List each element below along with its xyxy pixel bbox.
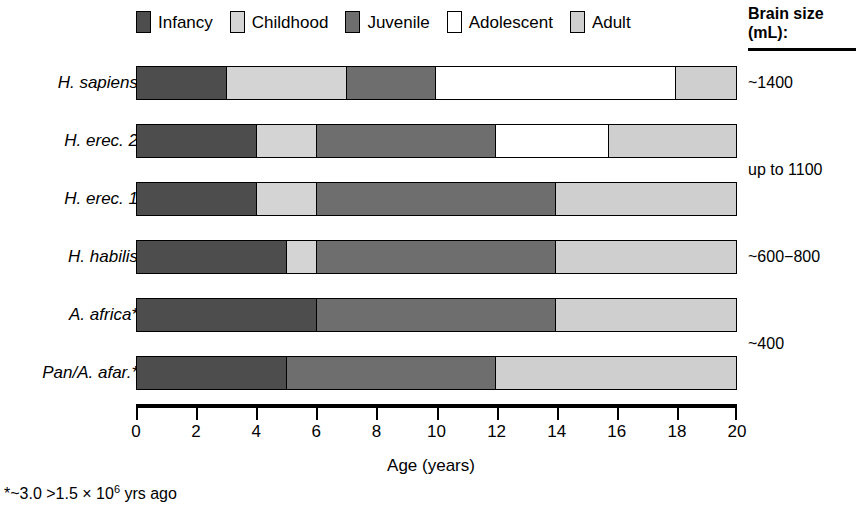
species-label: H. erec. 2	[64, 124, 138, 158]
x-axis-tick	[497, 407, 499, 420]
x-axis: 02468101214161820	[136, 404, 737, 444]
bar-segment-juvenile	[317, 299, 557, 331]
x-axis-title: Age (years)	[0, 456, 862, 476]
x-axis-tick-label: 20	[717, 422, 757, 441]
bar-segment-infancy	[137, 183, 257, 215]
species-label: H. habilis	[68, 240, 138, 274]
brain-size-header-rule	[748, 48, 856, 51]
bar-segment-childhood	[257, 125, 317, 157]
legend-swatch-adult	[570, 11, 585, 33]
x-axis-tick	[136, 407, 138, 420]
legend-label-childhood: Childhood	[252, 14, 329, 31]
bar-segment-juvenile	[317, 183, 557, 215]
bar-segment-infancy	[137, 357, 287, 389]
x-axis-tick-label: 16	[597, 422, 637, 441]
bar-segment-juvenile	[317, 241, 557, 273]
stacked-bar	[136, 356, 737, 390]
x-axis-tick	[316, 407, 318, 420]
legend-label-adolescent: Adolescent	[469, 14, 553, 31]
bar-segment-infancy	[137, 67, 227, 99]
legend-item-childhood: Childhood	[230, 11, 329, 33]
brain-size-header-line1: Brain size	[748, 5, 824, 22]
legend-item-adult: Adult	[570, 11, 631, 33]
stacked-bar	[136, 66, 737, 100]
chart-row: Pan/A. afar.*	[0, 356, 862, 390]
legend-swatch-adolescent	[447, 11, 462, 33]
x-axis-tick	[256, 407, 258, 420]
legend-label-juvenile: Juvenile	[367, 14, 429, 31]
legend-item-adolescent: Adolescent	[447, 11, 553, 33]
bar-segment-juvenile	[317, 125, 497, 157]
species-label: H. erec. 1	[64, 182, 138, 216]
footnote: *~3.0 >1.5 × 106 yrs ago	[4, 480, 177, 503]
stacked-bar	[136, 240, 737, 274]
brain-size-value: ~400	[748, 335, 862, 353]
chart-row: H. sapiens	[0, 66, 862, 100]
stacked-bar	[136, 298, 737, 332]
bar-segment-adolescent	[496, 125, 608, 157]
x-axis-tick	[196, 407, 198, 420]
x-axis-tick	[677, 407, 679, 420]
brain-size-column: Brain size (mL): ~1400up to 1100~600−800…	[748, 0, 862, 400]
legend-item-infancy: Infancy	[136, 11, 213, 33]
brain-size-header-line2: (mL):	[748, 24, 788, 41]
legend-label-adult: Adult	[592, 14, 631, 31]
brain-size-value: ~600−800	[748, 248, 862, 266]
bar-segment-adult	[556, 183, 736, 215]
legend-item-juvenile: Juvenile	[345, 11, 429, 33]
bar-segment-adolescent	[436, 67, 676, 99]
bar-segment-juvenile	[287, 357, 497, 389]
x-axis-tick-label: 18	[657, 422, 697, 441]
footnote-prefix: *~3.0 >1.5 × 10	[4, 485, 114, 502]
bar-segment-adult	[676, 67, 736, 99]
species-label: H. sapiens	[58, 66, 138, 100]
x-axis-tick-label: 10	[417, 422, 457, 441]
x-axis-tick-label: 14	[537, 422, 577, 441]
chart-row: H. erec. 1	[0, 182, 862, 216]
x-axis-tick-label: 4	[236, 422, 276, 441]
bar-segment-adult	[556, 299, 736, 331]
stacked-bar	[136, 124, 737, 158]
stacked-bar	[136, 182, 737, 216]
x-axis-tick-label: 6	[296, 422, 336, 441]
legend-swatch-infancy	[136, 11, 151, 33]
life-history-stages-chart: InfancyChildhoodJuvenileAdolescentAdult …	[0, 0, 862, 507]
bar-segment-infancy	[137, 241, 287, 273]
brain-size-value: ~1400	[748, 74, 862, 92]
legend-swatch-childhood	[230, 11, 245, 33]
footnote-suffix: yrs ago	[120, 485, 177, 502]
x-axis-tick-label: 12	[477, 422, 517, 441]
x-axis-tick	[735, 407, 737, 420]
x-axis-tick	[617, 407, 619, 420]
bar-segment-adult	[496, 357, 736, 389]
species-label: A. africa*	[69, 298, 138, 332]
x-axis-tick	[376, 407, 378, 420]
plot-area: H. sapiensH. erec. 2H. erec. 1H. habilis…	[0, 60, 862, 400]
chart-row: H. erec. 2	[0, 124, 862, 158]
bar-segment-juvenile	[347, 67, 437, 99]
x-axis-tick-label: 2	[176, 422, 216, 441]
bar-segment-adult	[609, 125, 736, 157]
brain-size-header: Brain size (mL):	[748, 4, 858, 42]
legend-label-infancy: Infancy	[158, 14, 213, 31]
brain-size-value: up to 1100	[748, 161, 862, 179]
x-axis-tick-label: 8	[356, 422, 396, 441]
chart-row: H. habilis	[0, 240, 862, 274]
species-label: Pan/A. afar.*	[42, 356, 138, 390]
bar-segment-infancy	[137, 125, 257, 157]
bar-segment-adult	[556, 241, 736, 273]
bar-segment-childhood	[257, 183, 317, 215]
x-axis-tick-label: 0	[116, 422, 156, 441]
chart-row: A. africa*	[0, 298, 862, 332]
x-axis-tick	[437, 407, 439, 420]
bar-segment-infancy	[137, 299, 317, 331]
legend-swatch-juvenile	[345, 11, 360, 33]
bar-segment-childhood	[227, 67, 347, 99]
bar-segment-childhood	[287, 241, 317, 273]
x-axis-tick	[557, 407, 559, 420]
chart-legend: InfancyChildhoodJuvenileAdolescentAdult	[136, 8, 736, 36]
